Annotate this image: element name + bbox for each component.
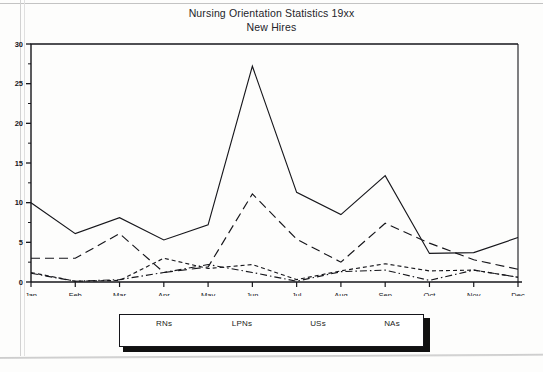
- chart-title-line-1: Nursing Orientation Statistics 19xx: [189, 7, 355, 19]
- y-axis-tick-label: 0: [19, 278, 23, 287]
- series-line-nas: [31, 258, 518, 281]
- legend-item-nas[interactable]: NAs: [354, 319, 430, 339]
- legend-label: USs: [280, 319, 356, 328]
- y-axis-tick-label: 20: [15, 119, 23, 128]
- chart-title-line-2: New Hires: [0, 20, 543, 34]
- x-axis-tick-label: Sep: [379, 291, 392, 296]
- y-axis-tick-label: 10: [15, 198, 23, 207]
- x-axis-tick-label: Dec: [511, 291, 525, 296]
- legend-swatch-lpns: [211, 337, 273, 339]
- x-axis-tick-label: Nov: [467, 291, 481, 296]
- x-axis-tick-label: Jan: [25, 291, 37, 296]
- x-axis-tick-label: Oct: [424, 291, 437, 296]
- legend-item-lpns[interactable]: LPNs: [204, 319, 280, 339]
- legend: RNsLPNsUSsNAs: [119, 314, 424, 347]
- legend-label: NAs: [354, 319, 430, 328]
- plot-area: 051015202530JanFebMarAprMayJunJulAugSepO…: [0, 36, 543, 296]
- y-axis-tick-label: 30: [15, 40, 23, 49]
- chart-title: Nursing Orientation Statistics 19xx New …: [0, 6, 543, 34]
- line-chart-svg: 051015202530JanFebMarAprMayJunJulAugSepO…: [0, 36, 543, 296]
- legend-label: RNs: [126, 319, 202, 328]
- y-axis-tick-label: 15: [15, 159, 23, 168]
- legend-swatch-nas: [361, 337, 423, 339]
- x-axis-tick-label: Jul: [292, 291, 302, 296]
- x-axis-tick-label: May: [201, 291, 215, 296]
- y-axis-tick-label: 25: [15, 79, 23, 88]
- legend-item-rns[interactable]: RNs: [126, 319, 202, 339]
- scan-artifact-top-line: [0, 3, 543, 4]
- series-line-lpns: [31, 194, 518, 273]
- series-line-rns: [31, 66, 518, 253]
- legend-swatch-uss: [287, 337, 349, 339]
- chart-page: Nursing Orientation Statistics 19xx New …: [0, 0, 543, 372]
- scan-artifact-bottom-line: [0, 354, 543, 359]
- legend-item-uss[interactable]: USs: [280, 319, 356, 339]
- series-line-uss: [31, 265, 518, 282]
- x-axis-tick-label: Apr: [158, 291, 170, 296]
- x-axis-tick-label: Mar: [113, 291, 126, 296]
- x-axis-tick-label: Aug: [334, 291, 347, 296]
- y-axis-tick-label: 5: [19, 238, 23, 247]
- x-axis-tick-label: Feb: [69, 291, 82, 296]
- legend-label: LPNs: [204, 319, 280, 328]
- legend-swatch-rns: [133, 337, 195, 339]
- x-axis-tick-label: Jun: [246, 291, 258, 296]
